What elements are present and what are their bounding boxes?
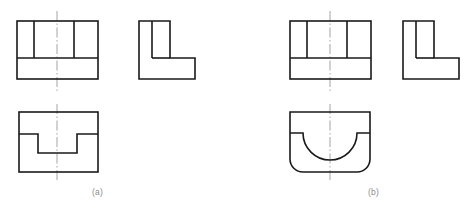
orthographic-drawing-canvas [0,0,467,212]
drawing-group-b [290,11,459,182]
a-top-view-notch [19,134,98,153]
a-front-view-outline [17,21,98,79]
caption-b: (b) [368,187,379,197]
b-side-view-outline [403,21,459,79]
a-top-view-outline [19,112,98,172]
figure-container: (a) (b) [0,0,467,212]
drawing-group-a [17,11,195,182]
a-side-view-outline [139,21,195,79]
b-front-view-outline [290,21,371,79]
caption-a: (a) [92,187,103,197]
